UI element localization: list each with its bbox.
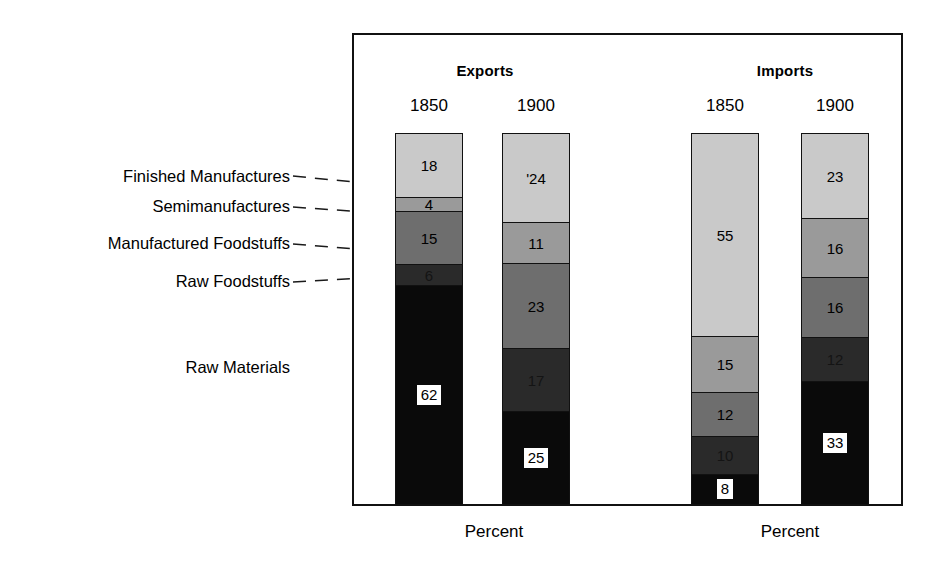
legend-label-finished-manufactures: Finished Manufactures [0, 167, 290, 186]
segment-raw-materials: 33 [801, 381, 869, 505]
segment-raw-foodstuffs: 12 [801, 337, 869, 383]
segment-value: '24 [526, 171, 546, 186]
segment-finished-manufactures: 18 [395, 133, 463, 198]
segment-value: 62 [417, 385, 442, 405]
segment-value: 6 [425, 268, 433, 283]
segment-raw-foodstuffs: 17 [502, 348, 570, 413]
legend-label-raw-foodstuffs: Raw Foodstuffs [0, 272, 290, 291]
segment-value: 10 [717, 448, 734, 463]
axis-label-percent-exports: Percent [424, 522, 564, 542]
stacked-bar-imports-1850: 55 15 12 10 8 [691, 133, 759, 505]
segment-semimanufactures: 15 [691, 336, 759, 393]
legend-label-manufactured-foodstuffs: Manufactured Foodstuffs [0, 234, 290, 253]
segment-raw-foodstuffs: 6 [395, 264, 463, 287]
segment-value: 16 [827, 241, 844, 256]
segment-value: 15 [717, 357, 734, 372]
year-label-exports-1850: 1850 [384, 96, 474, 116]
segment-raw-foodstuffs: 10 [691, 436, 759, 475]
segment-manufactured-foodstuffs: 15 [395, 211, 463, 266]
segment-raw-materials: 8 [691, 474, 759, 505]
segment-value: 12 [827, 352, 844, 367]
legend-label-raw-materials: Raw Materials [0, 358, 290, 377]
segment-value: 33 [823, 433, 848, 453]
stacked-bar-exports-1850: 18 4 15 6 62 [395, 133, 463, 505]
segment-value: 18 [421, 158, 438, 173]
chart-stage: Exports Imports 1850 1900 1850 1900 18 4… [0, 0, 929, 567]
segment-manufactured-foodstuffs: 23 [502, 263, 570, 350]
segment-manufactured-foodstuffs: 16 [801, 277, 869, 338]
segment-value: 55 [717, 228, 734, 243]
segment-manufactured-foodstuffs: 12 [691, 392, 759, 438]
stacked-bar-imports-1900: 23 16 16 12 33 [801, 133, 869, 505]
segment-value: 4 [425, 197, 433, 212]
segment-raw-materials: 62 [395, 285, 463, 505]
legend-label-semimanufactures: Semimanufactures [0, 197, 290, 216]
group-title-imports: Imports [730, 62, 840, 79]
segment-value: 25 [524, 448, 549, 468]
year-label-exports-1900: 1900 [491, 96, 581, 116]
segment-value: 16 [827, 300, 844, 315]
segment-value: 11 [528, 236, 544, 251]
segment-finished-manufactures: 23 [801, 133, 869, 220]
segment-value: 8 [717, 479, 733, 499]
segment-semimanufactures: 16 [801, 218, 869, 279]
segment-raw-materials: 25 [502, 411, 570, 505]
segment-value: 12 [717, 407, 734, 422]
year-label-imports-1850: 1850 [680, 96, 770, 116]
segment-value: 17 [528, 373, 545, 388]
segment-semimanufactures: 11 [502, 222, 570, 265]
segment-value: 23 [827, 169, 844, 184]
axis-label-percent-imports: Percent [720, 522, 860, 542]
segment-finished-manufactures: '24 [502, 133, 570, 223]
segment-value: 23 [528, 299, 545, 314]
segment-finished-manufactures: 55 [691, 133, 759, 338]
stacked-bar-exports-1900: '24 11 23 17 25 [502, 133, 570, 505]
group-title-exports: Exports [430, 62, 540, 79]
segment-value: 15 [421, 231, 438, 246]
year-label-imports-1900: 1900 [790, 96, 880, 116]
